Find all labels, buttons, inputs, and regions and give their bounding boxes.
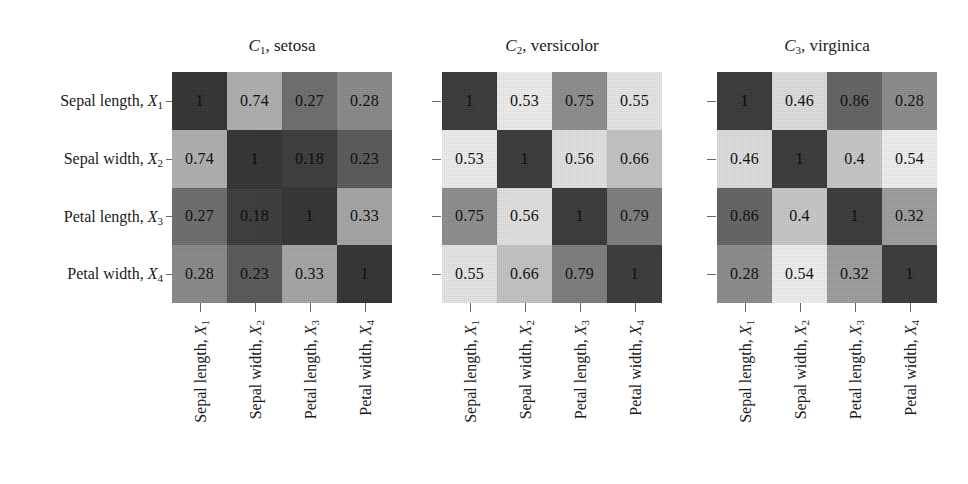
panel-title-virginica: C3, virginica xyxy=(717,36,937,57)
heatmap-cell: 0.28 xyxy=(882,72,937,130)
x-axis-label-text: Petal length, X3 xyxy=(847,320,865,419)
x-axis-tick-4 xyxy=(635,303,636,312)
heatmap-cell: 0.28 xyxy=(717,245,772,303)
cell-value: 0.66 xyxy=(620,150,649,168)
y-axis-tick-2 xyxy=(432,159,441,160)
heatmap-cell: 0.23 xyxy=(227,245,282,303)
heatmap-cell: 0.86 xyxy=(827,72,882,130)
heatmap-cell: 1 xyxy=(337,245,392,303)
heatmap-cell: 0.75 xyxy=(552,72,607,130)
y-axis-tick-2 xyxy=(707,159,716,160)
heatmap-cell: 1 xyxy=(607,245,662,303)
x-axis-label-text: Sepal width, X2 xyxy=(247,320,265,419)
x-axis-tick-2 xyxy=(800,303,801,312)
x-axis-label-text: Sepal length, X1 xyxy=(737,320,755,423)
x-axis-tick-4 xyxy=(365,303,366,312)
x-axis-label-text: Sepal length, X1 xyxy=(462,320,480,423)
x-axis-label-1: Sepal length, X1 xyxy=(442,312,499,482)
heatmap-cell: 0.74 xyxy=(172,130,227,188)
cell-value: 0.55 xyxy=(620,92,649,110)
heatmap-cell: 0.55 xyxy=(442,245,497,303)
x-axis-label-text: Petal width, X4 xyxy=(902,320,920,416)
x-axis-tick-1 xyxy=(745,303,746,312)
cell-value: 0.18 xyxy=(240,207,269,225)
x-axis-label-4: Petal width, X4 xyxy=(337,312,394,482)
heatmap-cell: 0.74 xyxy=(227,72,282,130)
x-axis-labels-setosa: Sepal length, X1Sepal width, X2Petal len… xyxy=(172,312,392,484)
x-axis-tick-3 xyxy=(855,303,856,312)
heatmap-cell: 0.32 xyxy=(827,245,882,303)
y-axis-tick-4 xyxy=(707,274,716,275)
cell-value: 0.23 xyxy=(240,265,269,283)
x-axis-label-1: Sepal length, X1 xyxy=(717,312,774,482)
heatmap-cell: 0.23 xyxy=(337,130,392,188)
heatmap-cell: 1 xyxy=(497,130,552,188)
x-axis-tick-3 xyxy=(310,303,311,312)
heatmap-cell: 0.28 xyxy=(337,72,392,130)
heatmap-cell: 0.56 xyxy=(497,188,552,246)
heatmap-cell: 0.27 xyxy=(172,188,227,246)
cell-value: 0.74 xyxy=(240,92,269,110)
heatmap-cell: 0.55 xyxy=(607,72,662,130)
heatmap-cell: 1 xyxy=(282,188,337,246)
x-axis-tick-4 xyxy=(910,303,911,312)
cell-value: 0.28 xyxy=(895,92,924,110)
heatmap-cell: 0.18 xyxy=(227,188,282,246)
cell-value: 0.27 xyxy=(185,207,214,225)
x-axis-label-text: Petal width, X4 xyxy=(357,320,375,416)
cell-value: 0.86 xyxy=(730,207,759,225)
heatmap-cell: 0.66 xyxy=(607,130,662,188)
cell-value: 0.54 xyxy=(785,265,814,283)
heatmap-cell: 1 xyxy=(882,245,937,303)
y-axis-tick-4 xyxy=(432,274,441,275)
cell-value: 0.4 xyxy=(789,207,810,225)
heatmap-cell: 1 xyxy=(552,188,607,246)
cell-value: 0.28 xyxy=(185,265,214,283)
cell-value: 0.23 xyxy=(350,150,379,168)
cell-value: 0.28 xyxy=(350,92,379,110)
cell-value: 0.46 xyxy=(785,92,814,110)
heatmap-cell: 0.86 xyxy=(717,188,772,246)
heatmap-cell: 0.18 xyxy=(282,130,337,188)
x-axis-label-text: Petal length, X3 xyxy=(302,320,320,419)
heatmap-cell: 0.79 xyxy=(552,245,607,303)
heatmap-cell: 0.46 xyxy=(772,72,827,130)
x-axis-label-text: Petal length, X3 xyxy=(572,320,590,419)
heatmap-cell: 0.56 xyxy=(552,130,607,188)
cell-value: 0.74 xyxy=(185,150,214,168)
cell-value: 1 xyxy=(905,265,913,283)
cell-value: 0.32 xyxy=(895,207,924,225)
heatmap-cell: 0.66 xyxy=(497,245,552,303)
cell-value: 1 xyxy=(250,150,258,168)
heatmap-versicolor: 10.530.750.550.5310.560.660.750.5610.790… xyxy=(442,72,662,303)
cell-value: 0.33 xyxy=(350,207,379,225)
x-axis-tick-2 xyxy=(525,303,526,312)
x-axis-label-text: Petal width, X4 xyxy=(627,320,645,416)
cell-value: 0.66 xyxy=(510,265,539,283)
correlation-matrix-figure: Sepal length, X1Sepal width, X2Petal len… xyxy=(0,0,968,484)
x-axis-label-4: Petal width, X4 xyxy=(607,312,664,482)
heatmap-cell: 0.33 xyxy=(282,245,337,303)
cell-value: 1 xyxy=(305,207,313,225)
heatmap-cell: 1 xyxy=(827,188,882,246)
heatmap-cell: 0.4 xyxy=(772,188,827,246)
heatmap-cell: 0.28 xyxy=(172,245,227,303)
cell-value: 1 xyxy=(630,265,638,283)
x-axis-label-3: Petal length, X3 xyxy=(282,312,339,482)
x-axis-tick-2 xyxy=(255,303,256,312)
cell-value: 1 xyxy=(850,207,858,225)
y-axis-tick-3 xyxy=(707,216,716,217)
heatmap-cell: 0.33 xyxy=(337,188,392,246)
heatmap-cell: 0.79 xyxy=(607,188,662,246)
heatmap-cell: 1 xyxy=(172,72,227,130)
cell-value: 0.55 xyxy=(455,265,484,283)
y-axis-tick-1 xyxy=(707,101,716,102)
cell-value: 0.27 xyxy=(295,92,324,110)
heatmap-cell: 1 xyxy=(717,72,772,130)
heatmap-cell: 0.46 xyxy=(717,130,772,188)
x-axis-label-2: Sepal width, X2 xyxy=(772,312,829,482)
cell-value: 1 xyxy=(795,150,803,168)
x-axis-label-4: Petal width, X4 xyxy=(882,312,939,482)
cell-value: 1 xyxy=(465,92,473,110)
heatmap-cell: 1 xyxy=(442,72,497,130)
